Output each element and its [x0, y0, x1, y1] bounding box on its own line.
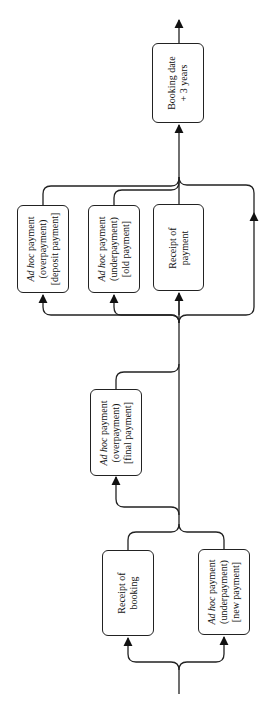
node-label: Ad hoc payment — [25, 213, 37, 285]
node-new-payment: Ad hoc payment (underpayment) [new payme… — [198, 549, 250, 635]
node-label: Ad hoc payment — [206, 560, 218, 625]
node-label: Ad hoc payment — [98, 400, 110, 465]
node-label: (overpayment) — [110, 400, 122, 465]
node-label: (underpayment) — [218, 560, 230, 625]
node-label: Booking date — [166, 56, 178, 110]
node-old-payment: Ad hoc payment (underpayment) [old payme… — [88, 205, 140, 293]
node-label: Ad hoc payment — [96, 217, 108, 282]
node-booking-date-plus-3-years: Booking date + 3 years — [152, 43, 204, 123]
node-receipt-of-booking: Receipt of booking — [102, 550, 154, 636]
node-label: (overpayment) — [37, 213, 49, 285]
node-label: booking — [128, 572, 140, 613]
node-label: Receipt of — [167, 227, 179, 268]
node-label: Receipt of — [116, 572, 128, 613]
node-label: (underpayment) — [108, 217, 120, 282]
node-label: [new payment] — [230, 560, 242, 625]
node-label: [deposit payment] — [49, 213, 61, 285]
node-label: + 3 years — [178, 56, 190, 110]
node-deposit-payment: Ad hoc payment (overpayment) [deposit pa… — [17, 205, 69, 293]
node-receipt-of-payment: Receipt of payment — [153, 204, 204, 291]
node-final-payment: Ad hoc payment (overpayment) [final paym… — [90, 389, 142, 476]
node-label: [old payment] — [120, 217, 132, 282]
node-label: payment — [179, 227, 191, 268]
node-label: [final payment] — [122, 400, 134, 465]
